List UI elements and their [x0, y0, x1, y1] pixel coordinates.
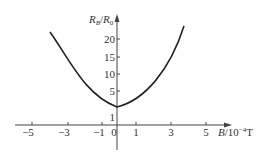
- y-tick-labels: 20 15 10 5 1: [104, 33, 116, 123]
- x-axis-label: B/10−4T: [218, 126, 253, 138]
- svg-text:1: 1: [133, 126, 139, 138]
- y-axis-label: RB/R0: [88, 13, 114, 27]
- chart: −5 −3 −1 0 1 3 5 20 15 10 5 1 RB/R0 B/10…: [0, 0, 265, 157]
- svg-text:1: 1: [110, 111, 116, 123]
- svg-text:10: 10: [104, 68, 116, 80]
- svg-text:5: 5: [110, 85, 116, 97]
- svg-text:−3: −3: [58, 126, 70, 138]
- svg-text:20: 20: [104, 33, 116, 45]
- y-axis-arrow-icon: [115, 14, 120, 22]
- svg-text:−5: −5: [22, 126, 34, 138]
- svg-text:15: 15: [104, 51, 116, 63]
- x-tick-labels: −5 −3 −1 0 1 3 5: [22, 126, 209, 138]
- svg-text:0: 0: [111, 126, 117, 138]
- svg-text:−1: −1: [93, 126, 105, 138]
- svg-text:5: 5: [203, 126, 209, 138]
- svg-text:3: 3: [168, 126, 174, 138]
